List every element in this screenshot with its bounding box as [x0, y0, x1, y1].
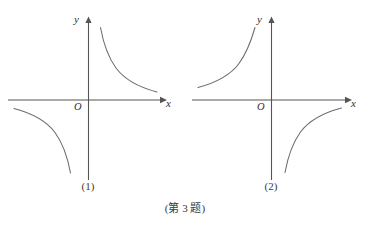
panel-caption-2: (2) — [243, 181, 299, 192]
graph-2-svg — [185, 0, 370, 200]
graph-panel-2: y x O (2) — [185, 0, 370, 200]
y-axis-arrowhead-1 — [85, 17, 91, 24]
hyperbola-branch-quadrant-3 — [14, 109, 71, 174]
origin-label-1: O — [74, 102, 82, 113]
graph-1-svg — [0, 0, 185, 200]
x-axis-label-1: x — [166, 98, 171, 109]
panel-caption-1: (1) — [60, 181, 116, 192]
hyperbola-branch-quadrant-2 — [198, 28, 255, 88]
hyperbola-branch-quadrant-1 — [101, 28, 158, 93]
figure-caption: (第 3 题) — [0, 203, 370, 214]
y-axis-arrowhead-2 — [268, 17, 274, 24]
hyperbola-branch-quadrant-4 — [285, 108, 342, 173]
x-axis-label-2: x — [351, 98, 356, 109]
y-axis-label-2: y — [257, 14, 262, 25]
y-axis-label-1: y — [74, 14, 79, 25]
origin-label-2: O — [257, 102, 265, 113]
graph-panel-1: y x O (1) — [0, 0, 185, 200]
figure-root: y x O (1) y x O (2) (第 3 题) — [0, 0, 370, 228]
